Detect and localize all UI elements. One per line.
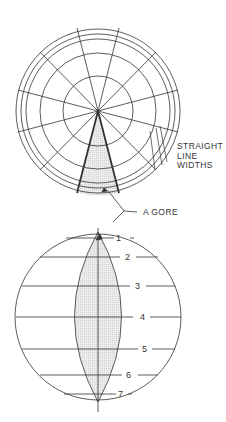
gore-diagram <box>0 0 226 422</box>
label-line-3: WIDTHS <box>177 161 223 171</box>
globe-view <box>15 228 181 412</box>
straight-line-widths-label: STRAIGHT LINE WIDTHS <box>177 142 223 171</box>
gore-number-4: 4 <box>140 312 145 322</box>
gore-number-3: 3 <box>135 281 140 291</box>
gore-number-7: 7 <box>118 389 123 399</box>
gore-number-2: 2 <box>125 252 130 262</box>
gore-number-6: 6 <box>126 370 131 380</box>
gore-number-1: 1 <box>116 233 121 243</box>
polar-view <box>16 28 180 222</box>
gore-label: A GORE <box>143 208 178 218</box>
gore-number-5: 5 <box>142 344 147 354</box>
